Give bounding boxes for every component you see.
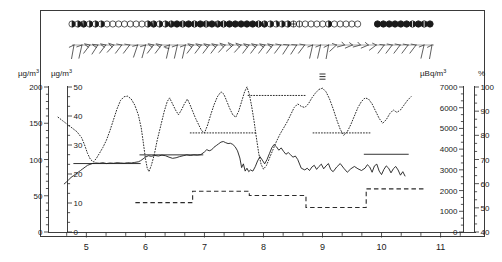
right-inner-axis-unit: µBq/m3	[420, 68, 446, 78]
okta-symbol	[320, 21, 326, 27]
okta-symbol	[186, 21, 192, 27]
okta-symbol	[380, 21, 386, 27]
okta-symbol	[386, 21, 392, 27]
okta-symbol	[191, 21, 197, 27]
wind-barb	[116, 44, 122, 53]
okta-symbol	[139, 21, 145, 27]
axis-tick-label: 6000	[440, 104, 458, 113]
chart-figure: µg/m3 µg/m3 µBq/m3 % 050100150200 010203…	[0, 0, 502, 262]
wind-barb	[107, 43, 113, 52]
okta-symbol	[314, 21, 320, 27]
axis-tick-label: 50	[34, 192, 43, 201]
axis-tick-label: 5000	[440, 124, 458, 133]
okta-symbol	[98, 21, 104, 27]
okta-symbol	[331, 21, 337, 27]
okta-symbol	[250, 21, 256, 27]
okta-symbol	[244, 21, 250, 27]
axis-tick-label: 3000	[440, 166, 458, 175]
wind-barb	[100, 44, 106, 53]
x-axis-tick-label: 5	[84, 242, 89, 252]
okta-symbol	[127, 21, 133, 27]
wind-barb	[324, 45, 329, 59]
okta-symbol	[121, 21, 127, 27]
wind-barb	[69, 45, 74, 59]
wind-barb	[92, 44, 98, 54]
axis-tick-label: 150	[29, 119, 43, 128]
right-inner-axis-ticks: 01000200030004000500060007000	[440, 83, 464, 237]
okta-symbol	[116, 21, 122, 27]
axis-tick-label: 0	[453, 228, 458, 237]
axis-tick-label: 100	[29, 156, 43, 165]
okta-symbol	[180, 21, 186, 27]
axis-tick-label: 50	[74, 83, 83, 92]
wind-barb	[141, 45, 146, 58]
wind-barb	[123, 44, 129, 53]
wind-barb	[77, 45, 82, 58]
wind-barb	[164, 45, 169, 58]
x-axis-tick-label: 10	[377, 242, 387, 252]
okta-symbol	[238, 21, 244, 27]
axis-tick-label: 50	[481, 204, 490, 213]
wind-barb	[337, 42, 344, 47]
wind-barb	[386, 44, 392, 53]
okta-symbol	[86, 21, 92, 27]
left-outer-axis-ticks: 050100150200	[29, 83, 48, 237]
axis-tick-label: 40	[481, 228, 490, 237]
left-inner-axis-ticks: 01020304050	[68, 83, 83, 237]
wind-barb	[410, 44, 416, 53]
okta-symbol	[343, 21, 349, 27]
axis-tick-label: 80	[481, 131, 490, 140]
okta-symbol	[355, 21, 361, 27]
wind-barb	[275, 44, 281, 53]
wind-barb	[267, 44, 273, 53]
okta-cloud-cover-row	[69, 21, 433, 27]
okta-symbol	[151, 21, 157, 27]
axis-tick-label: 10	[74, 199, 83, 208]
wind-barb	[291, 45, 297, 54]
humidity-line	[58, 87, 411, 172]
okta-symbol	[290, 21, 296, 27]
okta-symbol	[409, 21, 415, 27]
okta-symbol	[197, 21, 203, 27]
okta-symbol	[296, 21, 302, 27]
series-relative-humidity	[58, 87, 411, 172]
weather-symbol-row	[320, 74, 326, 79]
wind-barb	[299, 44, 305, 53]
right-outer-axis-unit: %	[478, 69, 485, 78]
x-axis-tick-label: 9	[320, 242, 325, 252]
x-axis-tick-label: 8	[261, 242, 266, 252]
okta-symbol	[255, 21, 261, 27]
okta-symbol	[285, 21, 291, 27]
wind-barb	[308, 45, 313, 58]
okta-symbol	[168, 21, 174, 27]
wind-barb	[235, 43, 241, 52]
wind-barb	[378, 44, 384, 53]
okta-symbol	[267, 21, 273, 27]
okta-symbol	[156, 21, 162, 27]
x-axis-tick-label: 6	[143, 242, 148, 252]
series-radon-activity-steps	[135, 189, 424, 208]
axis-tick-label: 70	[481, 156, 490, 165]
okta-symbol	[404, 21, 410, 27]
okta-symbol	[398, 21, 404, 27]
fog-symbol	[320, 74, 326, 79]
okta-symbol	[81, 21, 87, 27]
wind-barb	[330, 44, 337, 52]
okta-symbol	[273, 21, 279, 27]
okta-symbol	[308, 21, 314, 27]
okta-symbol	[427, 21, 433, 27]
okta-symbol	[220, 21, 226, 27]
wind-barb	[419, 45, 424, 58]
wind-barb	[180, 45, 185, 58]
wind-barb	[259, 44, 265, 53]
okta-symbol	[75, 21, 81, 27]
x-axis-tick-label: 11	[436, 242, 445, 252]
okta-symbol	[261, 21, 267, 27]
wind-barb	[345, 43, 352, 48]
okta-symbol	[69, 21, 75, 27]
axis-tick-label: 0	[38, 228, 43, 237]
okta-symbol	[421, 21, 427, 27]
wind-barb	[361, 43, 368, 49]
okta-symbol	[325, 21, 331, 27]
axis-tick-label: 40	[74, 112, 83, 121]
